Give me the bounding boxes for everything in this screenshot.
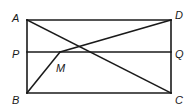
label-p: P <box>12 48 20 60</box>
label-a: A <box>11 12 19 24</box>
geometry-diagram: A D P Q M B C <box>0 0 189 112</box>
segment-ac <box>27 20 171 93</box>
label-c: C <box>175 94 183 106</box>
label-q: Q <box>175 48 184 60</box>
label-m: M <box>56 62 66 74</box>
segment-md <box>60 20 171 52</box>
label-d: D <box>175 9 183 21</box>
label-b: B <box>12 94 19 106</box>
